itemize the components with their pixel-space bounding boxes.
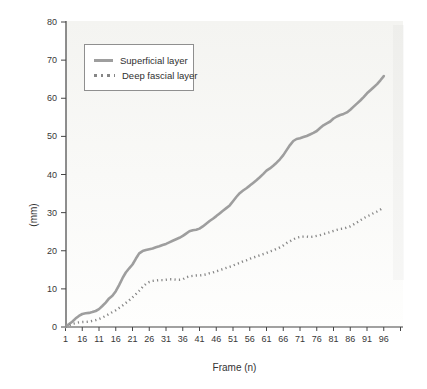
- x-axis-title: Frame (n): [66, 362, 403, 373]
- y-axis-title: (mm): [28, 203, 39, 226]
- legend-item-superficial: Superficial layer: [94, 53, 193, 68]
- x-tick-label: 16: [111, 334, 121, 344]
- x-axis-ticks: 116111621263136414651566166717681869196: [63, 327, 401, 344]
- legend-label-deep-fascial: Deep fascial layer: [122, 70, 198, 81]
- y-tick-label: 30: [47, 208, 57, 218]
- x-tick-label: 11: [94, 334, 103, 344]
- x-tick-label: 26: [144, 334, 154, 344]
- y-tick-label: 50: [47, 131, 57, 141]
- legend: Superficial layer Deep fascial layer: [84, 44, 194, 91]
- x-tick-label: 91: [362, 334, 372, 344]
- x-tick-label: 81: [328, 334, 338, 344]
- legend-item-deep-fascial: Deep fascial layer: [94, 68, 193, 83]
- dotted-line-swatch: [94, 74, 115, 77]
- scan-shadow: [393, 25, 404, 280]
- x-tick-label: 86: [345, 334, 355, 344]
- x-tick-label: 41: [194, 334, 204, 344]
- x-tick-label: 46: [211, 334, 221, 344]
- chart-canvas: 0102030405060708011611162126313641465156…: [0, 0, 427, 389]
- solid-line-swatch: [94, 59, 113, 62]
- y-tick-label: 80: [47, 17, 57, 27]
- x-tick-label: 61: [261, 334, 271, 344]
- x-tick-label: 71: [295, 334, 305, 344]
- x-tick-label: 56: [245, 334, 255, 344]
- x-tick-label: 31: [161, 334, 171, 344]
- y-tick-label: 40: [47, 170, 57, 180]
- y-tick-label: 70: [47, 55, 57, 65]
- y-tick-label: 60: [47, 93, 57, 103]
- x-tick-label: 1: [63, 334, 68, 344]
- x-tick-label: 96: [379, 334, 389, 344]
- legend-label-superficial: Superficial layer: [120, 55, 188, 66]
- x-tick-label: 21: [127, 334, 137, 344]
- y-tick-label: 10: [47, 284, 57, 294]
- x-tick-label: 36: [178, 334, 188, 344]
- x-tick-label: 51: [228, 334, 238, 344]
- line-chart-figure: 0102030405060708011611162126313641465156…: [0, 0, 427, 389]
- x-tick-label: 66: [278, 334, 288, 344]
- x-tick-label: 16: [77, 334, 87, 344]
- y-tick-label: 0: [52, 322, 57, 332]
- x-tick-label: 76: [312, 334, 322, 344]
- y-axis-ticks: 01020304050607080: [47, 17, 66, 332]
- y-tick-label: 20: [47, 246, 57, 256]
